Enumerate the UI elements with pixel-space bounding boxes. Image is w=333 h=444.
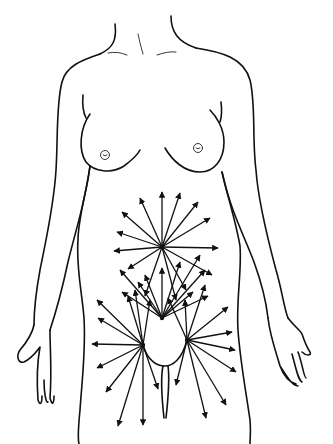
lower-abdomen-center [120, 255, 208, 320]
left-inner-arm [50, 166, 90, 330]
collarbone-left [108, 52, 127, 55]
left-hand [18, 325, 54, 403]
arrow-icon [120, 270, 162, 318]
radiating-arrows [92, 192, 236, 426]
arrow-icon [117, 232, 162, 247]
arrow-icon [140, 198, 162, 247]
arrow-icon [162, 270, 205, 318]
arrow-icon [162, 247, 176, 300]
collarbone-right [157, 52, 176, 55]
arrow-icon [162, 218, 210, 247]
neck-left-outline [100, 24, 115, 54]
pubic-triangle [143, 340, 187, 366]
radiation-origin-dot [141, 343, 145, 347]
radiation-origin-dot [185, 338, 189, 342]
left-nipple-center [103, 155, 107, 156]
sternal-notch [138, 34, 143, 54]
right-breast [165, 110, 224, 172]
arrow-icon [162, 247, 218, 248]
arrow-icon [114, 247, 162, 251]
left-shoulder-arm-outline [34, 54, 100, 325]
upper-abdomen-center [114, 192, 218, 300]
arrow-icon [128, 247, 162, 269]
arrow-icon [118, 345, 143, 426]
arrow-icon [143, 345, 158, 389]
arrow-icon [187, 340, 226, 405]
right-armpit [220, 102, 222, 122]
radiation-origin-dot [160, 316, 164, 320]
right-inner-arm [222, 172, 268, 318]
neck-right-outline [171, 16, 196, 48]
arrow-icon [135, 290, 143, 345]
left-torso-side [78, 166, 90, 444]
radiation-origin-dot [160, 245, 164, 249]
arrow-icon [162, 262, 180, 318]
arrow-icon [92, 344, 143, 345]
right-nipple-center [196, 148, 200, 149]
arrow-icon [187, 332, 232, 340]
left-pelvic-center [92, 290, 158, 426]
right-shoulder-arm-outline [196, 48, 288, 318]
arrow-icon [145, 247, 162, 296]
arrow-icon [187, 340, 206, 418]
right-nipple [194, 144, 203, 153]
illustration-canvas [0, 0, 333, 444]
arrow-icon [187, 285, 205, 340]
arrow-icon [162, 202, 198, 247]
arrow-icon [162, 193, 180, 247]
arrow-icon [122, 212, 162, 247]
arrow-icon [176, 340, 187, 385]
left-nipple [101, 151, 110, 160]
right-hand [268, 318, 310, 386]
left-armpit [83, 95, 86, 118]
arrow-icon [187, 307, 228, 340]
midline-cleft [161, 366, 168, 418]
left-breast [81, 114, 140, 171]
arrow-icon [106, 345, 143, 392]
torso-figure [0, 0, 333, 444]
arrow-icon [97, 345, 143, 368]
